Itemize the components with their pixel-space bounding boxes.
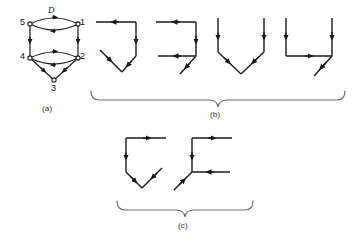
node-label-3: 3 xyxy=(51,83,56,93)
caption-b: (b) xyxy=(210,110,220,119)
edge-2-4-lower xyxy=(30,58,78,64)
node-label-1: 1 xyxy=(80,17,85,27)
figure-root: D 5 1 4 2 3 (a) xyxy=(0,0,352,244)
caption-a: (a) xyxy=(42,104,52,113)
node-4 xyxy=(28,56,32,60)
panel-b-shapes xyxy=(92,14,350,86)
node-label-4: 4 xyxy=(20,51,25,61)
arrow-4-3-down xyxy=(41,68,45,72)
shape-b-3 xyxy=(218,18,264,74)
caption-c: (c) xyxy=(178,221,188,230)
brace-c xyxy=(114,198,256,218)
node-3 xyxy=(52,78,56,82)
edge-5-1-upper xyxy=(30,18,78,24)
shape-b-1 xyxy=(96,22,136,72)
node-label-5: 5 xyxy=(20,17,25,27)
edge-4-2-upper xyxy=(30,52,78,58)
arrow-2-3-down xyxy=(64,68,68,72)
edge-1-5-lower xyxy=(30,24,78,30)
edge-label-D: D xyxy=(48,5,55,15)
panel-c-shapes xyxy=(116,130,256,194)
shape-b-4 xyxy=(286,18,332,76)
node-5 xyxy=(28,22,32,26)
shape-c-1 xyxy=(126,138,166,188)
brace-b xyxy=(88,88,348,108)
shape-b-2 xyxy=(156,22,196,74)
node-label-2: 2 xyxy=(80,51,85,61)
